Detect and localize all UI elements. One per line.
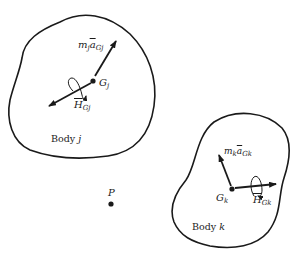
point-p xyxy=(108,201,113,206)
mass-subscript: k xyxy=(233,150,237,158)
angular-momentum-subscript: Gk xyxy=(262,199,272,207)
mass-subscript: j xyxy=(87,44,89,52)
body-j-rotation-arrow-icon xyxy=(68,78,86,99)
center-symbol: G xyxy=(99,77,107,88)
acceleration-subscript: Gj xyxy=(96,44,104,52)
body-j-center-label: Gj xyxy=(99,78,109,88)
center-symbol: G xyxy=(216,192,224,203)
body-word: Body xyxy=(51,133,75,144)
diagram-canvas xyxy=(0,0,295,257)
body-k-moment-label: HGk xyxy=(253,195,272,205)
body-k-outline xyxy=(172,113,289,247)
body-k-center-point xyxy=(229,186,234,191)
body-k-center-label: Gk xyxy=(216,193,228,203)
body-j-center-point xyxy=(90,78,95,83)
body-k-moment-arrow xyxy=(235,184,276,188)
body-index: k xyxy=(219,221,225,232)
body-k-force-arrow xyxy=(219,155,231,186)
center-subscript: k xyxy=(224,197,228,205)
angular-momentum-symbol: H xyxy=(253,194,262,205)
acceleration-subscript: Gk xyxy=(242,150,252,158)
body-k-label: Body k xyxy=(192,222,225,232)
point-p-label: P xyxy=(108,188,115,198)
body-j-moment-label: HGj xyxy=(74,100,91,110)
center-subscript: j xyxy=(107,82,109,90)
body-j-label: Body j xyxy=(51,134,81,144)
angular-momentum-subscript: Gj xyxy=(83,104,91,112)
body-index: j xyxy=(78,133,81,144)
body-j-outline xyxy=(9,15,155,158)
body-j-force-label: mjaGj xyxy=(78,40,103,50)
body-word: Body xyxy=(192,221,216,232)
body-k-force-label: mkaGk xyxy=(224,147,252,156)
angular-momentum-symbol: H xyxy=(74,99,83,110)
mass-symbol: m xyxy=(224,146,233,156)
acceleration-symbol: a xyxy=(90,39,96,50)
